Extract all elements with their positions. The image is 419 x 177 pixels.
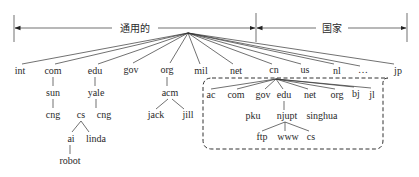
country-label: 国家 — [322, 22, 342, 34]
node-ai: ai — [67, 133, 74, 144]
node-cn-edu: edu — [277, 89, 291, 100]
node-sun-cng: cng — [46, 109, 60, 120]
domain-name-tree-diagram: 通用的 国家 int com edu gov org mil net cn us… — [0, 0, 419, 177]
node-us: us — [301, 64, 310, 75]
node-robot: robot — [59, 155, 80, 166]
node-linda: linda — [86, 133, 107, 144]
node-mil: mil — [194, 65, 208, 76]
cn-subtree: ac com gov edu net org bj jl pku njupt s… — [207, 79, 375, 142]
node-sun: sun — [46, 87, 60, 98]
node-acm: acm — [162, 87, 179, 98]
node-singhua: singhua — [306, 110, 338, 121]
node-cn-org: org — [330, 89, 343, 100]
node-cn: cn — [269, 64, 278, 75]
node-yale: yale — [88, 87, 105, 98]
node-nl: nl — [333, 65, 341, 76]
node-cn-com: com — [227, 89, 244, 100]
node-www: www — [277, 131, 299, 142]
node-jack: jack — [147, 109, 165, 120]
generic-subtrees: sun cng yale cs cng ai linda robot acm j… — [46, 77, 194, 166]
node-njupt-cs: cs — [307, 131, 315, 142]
node-cn-bj: bj — [352, 88, 360, 99]
node-pku: pku — [246, 110, 261, 121]
node-yale-cs: cs — [77, 109, 85, 120]
top-level-domains: int com edu gov org mil net cn us nl … j… — [15, 64, 402, 76]
node-njupt: njupt — [277, 110, 298, 121]
node-cn-net: net — [304, 89, 316, 100]
generic-label: 通用的 — [120, 22, 150, 34]
node-cn-ac: ac — [207, 89, 216, 100]
node-jp: jp — [393, 65, 402, 76]
node-cn-gov: gov — [256, 89, 271, 100]
node-edu: edu — [88, 65, 102, 76]
node-ellipsis: … — [358, 64, 368, 75]
node-net: net — [230, 65, 242, 76]
node-ftp: ftp — [256, 131, 267, 142]
node-yale-cng: cng — [97, 109, 111, 120]
node-jill: jill — [181, 109, 193, 120]
node-int: int — [15, 65, 26, 76]
node-org: org — [160, 64, 173, 75]
node-com: com — [44, 65, 61, 76]
root-edges — [22, 33, 394, 66]
node-cn-jl: jl — [368, 89, 375, 100]
node-gov: gov — [124, 64, 139, 75]
